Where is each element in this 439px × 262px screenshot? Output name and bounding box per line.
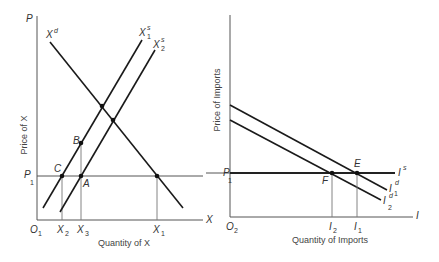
import-supply-label: I	[398, 167, 401, 178]
import-demand-curve-1	[230, 105, 387, 190]
tick-x1-sub: 1	[161, 230, 165, 237]
tick-x1: X	[152, 224, 160, 235]
supply1-label: X	[138, 27, 146, 38]
import-demand2-sub: 2	[388, 204, 392, 211]
right-p1-sub: 1	[228, 177, 232, 184]
point-e-label: E	[354, 158, 361, 169]
import-demand2-label: I	[383, 195, 386, 206]
right-origin-label: O	[226, 221, 234, 232]
tick-i1-sub: 1	[358, 227, 362, 234]
point-a-label: A	[82, 178, 90, 189]
left-y-axis-label: P	[26, 13, 33, 24]
tick-i2: I	[329, 221, 332, 232]
trade-diagram: P X O 1 Price of X Quantity of X P 1 X d…	[0, 0, 439, 262]
demand-curve-xd	[50, 42, 183, 208]
tick-i1: I	[354, 221, 357, 232]
right-x-title: Quantity of Imports	[292, 235, 369, 245]
supply1-sup: s	[147, 24, 151, 31]
tick-x3: X	[76, 224, 84, 235]
point-c	[60, 174, 65, 179]
left-y-title: Price of X	[19, 115, 29, 154]
supply2-sub: 2	[161, 45, 165, 52]
point-b-label: B	[73, 135, 80, 146]
left-origin-sub: 1	[38, 230, 42, 237]
tick-x3-sub: 3	[85, 230, 89, 237]
tick-x2-sub: 2	[65, 230, 69, 237]
right-panel: I O 2 Price of Imports Quantity of Impor…	[206, 15, 419, 245]
point-e	[355, 171, 360, 176]
import-demand1-sub: 1	[394, 190, 398, 197]
demand-label-sup: d	[54, 27, 59, 34]
tick-x2: X	[56, 224, 64, 235]
point-f	[330, 171, 335, 176]
supply-curve-x2s	[60, 50, 155, 212]
equilibrium-point-1	[100, 104, 105, 109]
right-y-title: Price of Imports	[212, 68, 222, 132]
right-origin-sub: 2	[234, 227, 238, 234]
point-f-label: F	[322, 175, 329, 186]
equilibrium-point-2	[111, 118, 116, 123]
right-x-axis-label: I	[416, 210, 419, 221]
import-demand1-sup: d	[395, 179, 400, 186]
left-panel: P X O 1 Price of X Quantity of X P 1 X d…	[19, 13, 213, 248]
left-x-axis-label: X	[205, 214, 213, 225]
supply2-label: X	[152, 39, 160, 50]
left-p1-sub: 1	[30, 179, 34, 186]
point-c-label: C	[54, 163, 62, 174]
import-supply-sup: s	[403, 164, 407, 171]
demand-label: X	[45, 29, 53, 40]
supply1-sub: 1	[147, 33, 151, 40]
tick-i2-sub: 2	[333, 227, 337, 234]
left-origin-label: O	[30, 224, 38, 235]
point-x1-demand	[155, 174, 160, 179]
supply-curve-x1s	[43, 40, 142, 208]
supply2-sup: s	[161, 36, 165, 43]
left-x-title: Quantity of X	[98, 238, 150, 248]
